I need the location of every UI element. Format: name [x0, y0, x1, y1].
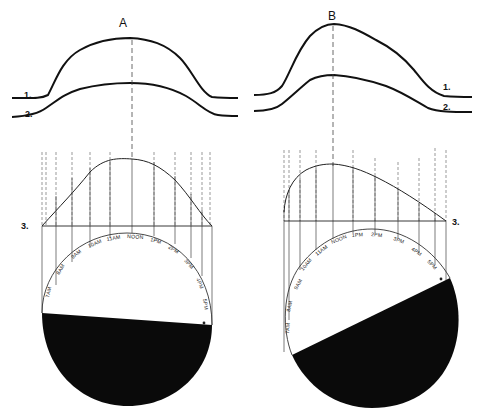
panel-b-shadow-region — [292, 278, 459, 408]
svg-text:1PM: 1PM — [150, 236, 162, 245]
svg-text:8AM: 8AM — [55, 263, 66, 276]
svg-text:4PM: 4PM — [195, 277, 205, 290]
panel-a-curve-3 — [42, 159, 212, 226]
panel-b-dial-marker — [440, 278, 443, 281]
svg-text:7AM: 7AM — [44, 286, 52, 298]
svg-text:9AM: 9AM — [293, 278, 304, 291]
svg-text:3PM: 3PM — [393, 235, 406, 244]
svg-text:10AM: 10AM — [87, 238, 103, 249]
svg-text:NOON: NOON — [127, 233, 144, 240]
svg-text:4PM: 4PM — [410, 246, 423, 257]
panel-a-dial-marker — [203, 322, 206, 325]
panel-a-curve-3-label: 3. — [21, 221, 29, 231]
panel-b: B 1. 2. — [254, 9, 472, 408]
svg-text:11AM: 11AM — [106, 234, 121, 242]
svg-text:10AM: 10AM — [299, 257, 313, 272]
svg-text:1PM: 1PM — [352, 231, 364, 238]
panel-a-curve-1-label: 1. — [24, 90, 32, 100]
panel-b-curve-1-label: 1. — [443, 82, 451, 92]
svg-text:8AM: 8AM — [285, 300, 293, 312]
panel-a: A 1. 2. — [12, 16, 238, 406]
svg-text:3PM: 3PM — [183, 258, 195, 270]
panel-a-projection-lines — [42, 152, 210, 226]
svg-text:2PM: 2PM — [167, 244, 180, 255]
svg-text:5PM: 5PM — [426, 259, 438, 271]
svg-text:2PM: 2PM — [371, 231, 383, 238]
panel-a-curve-2-label: 2. — [25, 109, 33, 119]
panel-a-curve-2 — [12, 83, 238, 117]
svg-text:5PM: 5PM — [202, 298, 210, 310]
panel-b-projection-lines — [284, 148, 446, 221]
panel-b-curve-2-label: 2. — [443, 102, 451, 112]
panel-a-dial-outline — [42, 233, 212, 325]
panel-b-title: B — [328, 9, 336, 23]
panel-b-curve-3-label: 3. — [452, 217, 460, 227]
panel-a-shadow-region — [42, 313, 212, 406]
panel-b-curve-3 — [284, 164, 446, 221]
svg-text:7AM: 7AM — [284, 322, 291, 334]
panel-b-curve-1 — [254, 24, 472, 97]
panel-a-curve-1 — [12, 38, 238, 98]
diagram-canvas: A 1. 2. — [0, 0, 486, 417]
panel-a-hour-lines — [42, 159, 212, 325]
panel-a-title: A — [119, 16, 127, 30]
panel-a-dial-labels: 7AM 8AM 9AM 10AM 11AM NOON 1PM 2PM 3PM 4… — [44, 233, 209, 310]
